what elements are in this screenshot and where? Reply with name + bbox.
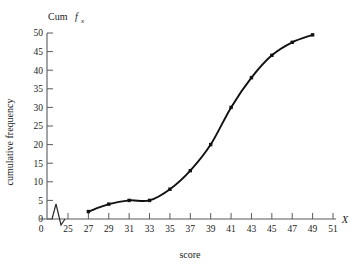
y-axis-label: cumulative frequency [4,99,15,186]
data-point-39-20 [209,143,212,146]
data-point-41-30 [229,106,232,109]
ogive-curve [88,35,312,212]
ogive-plot: cumulative frequency Cum f x 0 X score 0… [0,0,362,272]
chart-header-symbol: f [75,11,79,22]
origin-label: 0 [39,224,44,234]
x-tick-label-33: 33 [145,224,155,234]
x-tick-label-47: 47 [287,224,297,234]
y-tick-label-10: 10 [34,177,44,187]
y-tick-label-5: 5 [38,196,43,206]
x-tick-label-37: 37 [186,224,196,234]
x-tick-label-29: 29 [104,224,114,234]
y-axis-ticks: 05101520253035404550 [34,28,54,224]
x-tick-label-25: 25 [63,224,73,234]
x-tick-label-45: 45 [267,224,277,234]
y-tick-label-15: 15 [34,159,44,169]
x-tick-label-49: 49 [308,224,318,234]
data-point-markers [87,33,315,213]
data-point-47-47.5 [291,41,294,44]
x-tick-label-51: 51 [328,224,338,234]
x-axis-break-icon [52,204,65,225]
data-point-37-13 [189,169,192,172]
x-tick-label-35: 35 [165,224,175,234]
data-series-ogive [88,35,312,212]
chart-header-subscript: x [80,17,85,25]
x-tick-label-41: 41 [226,224,236,234]
cumulative-frequency-chart: cumulative frequency Cum f x 0 X score 0… [0,0,362,272]
data-point-31-5 [127,199,130,202]
y-tick-label-0: 0 [38,214,43,224]
y-tick-label-30: 30 [34,103,44,113]
data-point-45-44 [270,54,273,57]
data-point-29-4 [107,202,110,205]
data-point-33-5 [148,199,151,202]
y-tick-label-45: 45 [34,47,44,57]
x-axis-label: score [179,249,201,260]
chart-header-label: Cum [48,11,68,22]
x-tick-label-31: 31 [124,224,134,234]
x-tick-label-27: 27 [84,224,94,234]
x-axis-ticks: 2527293133353739414345474951 [63,213,338,234]
y-tick-label-25: 25 [34,121,44,131]
x-tick-label-43: 43 [247,224,257,234]
data-point-27-2 [87,210,90,213]
x-tick-label-39: 39 [206,224,216,234]
y-tick-label-35: 35 [34,84,44,94]
data-point-35-8 [168,188,171,191]
y-tick-label-50: 50 [34,28,44,38]
data-point-49-49.5 [311,33,314,36]
y-tick-label-20: 20 [34,140,44,150]
x-axis-symbol: X [341,214,349,225]
y-tick-label-40: 40 [34,66,44,76]
data-point-43-38 [250,76,253,79]
